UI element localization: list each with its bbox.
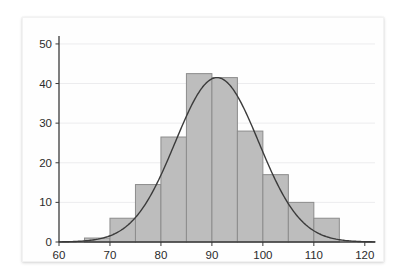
histogram-bar (263, 175, 288, 242)
x-tick-label: 60 (53, 249, 66, 261)
x-axis-tick-labels: 60708090100110120 (53, 249, 375, 261)
figure-root: 01020304050 60708090100110120 (0, 0, 407, 278)
y-tick-label: 40 (39, 78, 52, 90)
histogram-bar (161, 137, 186, 242)
chart-card: 01020304050 60708090100110120 (22, 17, 384, 262)
x-tick-label: 70 (104, 249, 117, 261)
histogram-bars (84, 74, 339, 242)
y-tick-label: 20 (39, 157, 52, 169)
x-tick-label: 120 (355, 249, 374, 261)
y-axis-tick-labels: 01020304050 (39, 38, 52, 248)
x-tick-label: 100 (253, 249, 272, 261)
histogram-bar (237, 131, 262, 242)
y-tick-label: 30 (39, 117, 52, 129)
histogram-bar (212, 78, 237, 242)
histogram-chart: 01020304050 60708090100110120 (23, 18, 385, 263)
y-tick-label: 10 (39, 196, 52, 208)
y-tick-label: 50 (39, 38, 52, 50)
histogram-bar (186, 74, 211, 242)
y-tick-label: 0 (46, 236, 52, 248)
x-tick-label: 80 (155, 249, 168, 261)
x-tick-label: 90 (206, 249, 219, 261)
x-tick-label: 110 (305, 249, 323, 261)
